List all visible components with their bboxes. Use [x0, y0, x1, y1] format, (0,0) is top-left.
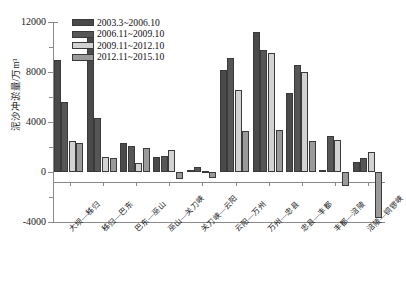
x-tick [169, 182, 170, 186]
bar[interactable] [135, 163, 142, 172]
bar[interactable] [268, 53, 275, 172]
y-tick [48, 222, 53, 223]
bar[interactable] [194, 167, 201, 172]
x-tick [202, 182, 203, 186]
bar[interactable] [260, 50, 267, 173]
bar[interactable] [253, 32, 260, 172]
bar[interactable] [102, 157, 109, 172]
x-tick [236, 182, 237, 186]
bar-group [286, 22, 316, 222]
bar[interactable] [176, 172, 183, 179]
bar[interactable] [353, 162, 360, 172]
bar[interactable] [276, 130, 283, 172]
x-tick [302, 182, 303, 186]
bar[interactable] [235, 90, 242, 173]
y-axis-title: 泥沙冲淤量/万m³ [8, 40, 22, 150]
legend-label: 2012.11~2015.10 [97, 52, 164, 62]
y-tick-label: 0 [41, 167, 46, 177]
bar[interactable] [76, 143, 83, 172]
bar[interactable] [153, 157, 160, 172]
y-tick-label: 8000 [26, 67, 46, 77]
bar[interactable] [309, 141, 316, 172]
bar[interactable] [168, 150, 175, 173]
bar[interactable] [61, 102, 68, 172]
bar[interactable] [69, 141, 76, 172]
legend-label: 2006.11~2009.10 [97, 29, 164, 39]
bar[interactable] [319, 170, 326, 173]
bar[interactable] [161, 156, 168, 172]
bar[interactable] [94, 118, 101, 172]
bar[interactable] [143, 148, 150, 172]
bar[interactable] [187, 170, 194, 172]
legend-label: 2003.3~2006.10 [97, 18, 160, 28]
bar[interactable] [301, 72, 308, 172]
bar-group [220, 22, 250, 222]
legend-swatch-icon [72, 19, 94, 26]
bar[interactable] [202, 171, 209, 173]
legend: 2003.3~2006.10 2006.11~2009.10 2009.11~2… [72, 17, 164, 63]
legend-item-1[interactable]: 2006.11~2009.10 [72, 29, 164, 40]
legend-item-0[interactable]: 2003.3~2006.10 [72, 17, 164, 28]
bar[interactable] [342, 172, 349, 186]
x-tick [335, 182, 336, 186]
bar[interactable] [334, 140, 341, 173]
bar[interactable] [220, 70, 227, 173]
x-tick [269, 182, 270, 186]
bar[interactable] [242, 131, 249, 172]
bar[interactable] [294, 65, 301, 172]
y-axis-bottom-cap [53, 222, 58, 223]
bar[interactable] [368, 152, 375, 172]
bar[interactable] [209, 172, 216, 178]
legend-item-2[interactable]: 2009.11~2012.10 [72, 40, 164, 51]
bar[interactable] [286, 93, 293, 172]
legend-label: 2009.11~2012.10 [97, 41, 164, 51]
bar[interactable] [128, 146, 135, 172]
y-tick-label: 12000 [21, 17, 46, 27]
x-tick [368, 182, 369, 186]
x-tick [136, 182, 137, 186]
bar[interactable] [327, 136, 334, 172]
y-tick-label: 4000 [26, 117, 46, 127]
y-tick-label: -4000 [23, 217, 46, 227]
bar[interactable] [360, 158, 367, 172]
x-tick [70, 182, 71, 186]
bar-group [253, 22, 283, 222]
legend-swatch-icon [72, 54, 94, 61]
x-tick [103, 182, 104, 186]
legend-swatch-icon [72, 31, 94, 38]
bar-group [353, 22, 383, 222]
legend-swatch-icon [72, 42, 94, 49]
bar-group [187, 22, 217, 222]
bar[interactable] [110, 158, 117, 172]
bar[interactable] [120, 143, 127, 172]
legend-item-3[interactable]: 2012.11~2015.10 [72, 52, 164, 63]
bar-group [319, 22, 349, 222]
bar[interactable] [227, 58, 234, 172]
bar[interactable] [54, 60, 61, 173]
